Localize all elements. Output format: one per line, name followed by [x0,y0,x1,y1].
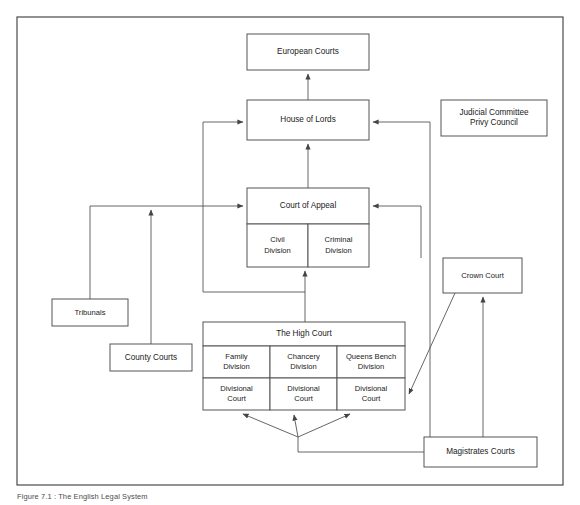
node-european-courts[interactable]: European Courts [247,34,369,70]
court-hierarchy-diagram: European CourtsHouse of LordsJudicial Co… [0,0,580,505]
node-label-magistrates-courts: Magistrates Courts [446,447,515,456]
figure-caption: Figure 7.1 : The English Legal System [17,492,148,501]
node-label-civil-division: Civil [270,235,285,244]
node-house-of-lords[interactable]: House of Lords [247,100,369,140]
node-criminal-division[interactable]: CriminalDivision [308,224,369,267]
node-label-divisional-court-family: Court [227,394,246,403]
node-tribunals[interactable]: Tribunals [52,299,128,326]
node-family-division[interactable]: FamilyDivision [203,346,270,378]
node-divisional-court-chancery[interactable]: DivisionalCourt [270,378,337,410]
node-label-judicial-committee-privy-council: Privy Council [470,118,518,127]
node-the-high-court[interactable]: The High Court [203,322,405,346]
node-label-house-of-lords: House of Lords [280,115,336,124]
node-label-chancery-division: Division [290,362,317,371]
node-divisional-court-family[interactable]: DivisionalCourt [203,378,270,410]
node-civil-division[interactable]: CivilDivision [247,224,308,267]
node-label-family-division: Family [225,352,248,361]
node-court-of-appeal[interactable]: Court of Appeal [247,188,369,224]
node-queens-bench-division[interactable]: Queens BenchDivision [337,346,405,378]
node-label-queens-bench-division: Division [358,362,385,371]
node-county-courts[interactable]: County Courts [110,344,192,371]
node-label-court-of-appeal: Court of Appeal [280,201,337,210]
node-magistrates-courts[interactable]: Magistrates Courts [424,437,537,467]
node-label-family-division: Division [223,362,250,371]
node-label-criminal-division: Criminal [325,235,353,244]
node-label-queens-bench-division: Queens Bench [346,352,396,361]
node-label-criminal-division: Division [325,246,352,255]
node-label-chancery-division: Chancery [287,352,320,361]
node-label-divisional-court-family: Divisional [220,384,253,393]
figure-root: European CourtsHouse of LordsJudicial Co… [0,0,580,505]
node-label-judicial-committee-privy-council: Judicial Committee [459,108,529,117]
node-label-european-courts: European Courts [277,47,339,56]
node-divisional-court-queens-bench[interactable]: DivisionalCourt [337,378,405,410]
node-label-tribunals: Tribunals [75,308,106,317]
node-judicial-committee-privy-council[interactable]: Judicial CommitteePrivy Council [441,100,547,136]
node-label-divisional-court-chancery: Divisional [287,384,320,393]
node-crown-court[interactable]: Crown Court [443,258,522,293]
node-chancery-division[interactable]: ChanceryDivision [270,346,337,378]
node-label-divisional-court-chancery: Court [294,394,313,403]
node-label-divisional-court-queens-bench: Divisional [355,384,388,393]
node-label-civil-division: Division [264,246,291,255]
node-label-crown-court: Crown Court [461,271,505,280]
node-label-county-courts: County Courts [125,353,177,362]
node-label-the-high-court: The High Court [276,329,332,338]
node-label-divisional-court-queens-bench: Court [362,394,381,403]
